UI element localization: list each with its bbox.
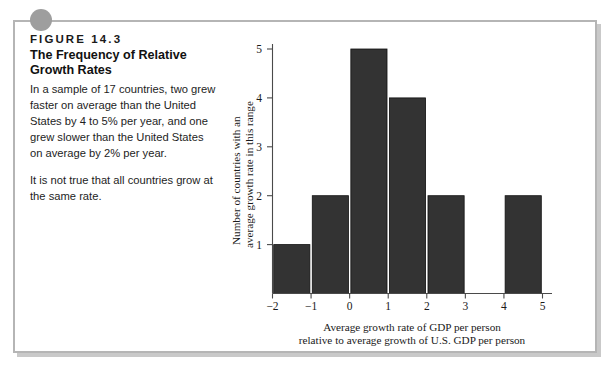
figure-number-label: FIGURE 14.3 — [30, 33, 216, 45]
figure-title-line-2: Growth Rates — [30, 63, 112, 77]
figure-caption-column: FIGURE 14.3 The Frequency of Relative Gr… — [30, 33, 216, 204]
corner-dot-decoration — [30, 9, 52, 31]
figure-caption-paragraph-1: In a sample of 17 countries, two grew fa… — [30, 81, 216, 161]
figure-caption-paragraph-2: It is not true that all countries grow a… — [30, 172, 216, 204]
figure-title-line-1: The Frequency of Relative — [30, 48, 187, 62]
figure-title: The Frequency of Relative Growth Rates — [30, 48, 216, 78]
